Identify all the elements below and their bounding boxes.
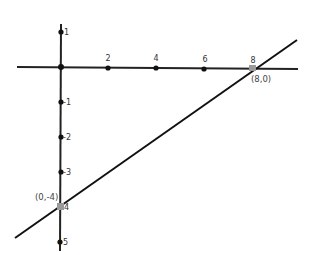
y-tick-label: 4	[64, 203, 69, 212]
y-tick-neg5: 5	[57, 238, 68, 247]
origin-dot	[58, 64, 64, 70]
y-tick-label: -2	[63, 133, 71, 142]
y-tick-neg4: 4	[64, 203, 69, 212]
x-tick-label: 8	[250, 56, 255, 65]
x-tick-8: 8	[250, 56, 255, 65]
x-intercept-label: (8,0)	[251, 74, 271, 84]
x-tick-2: 2	[105, 54, 110, 71]
y-tick-label: -1	[63, 98, 71, 107]
y-intercept-label: (0,-4)	[35, 192, 58, 202]
x-tick-label: 6	[202, 55, 207, 64]
y-tick-label: -3	[63, 168, 71, 177]
y-tick-label: 5	[63, 238, 68, 247]
y-tick-label: 1	[64, 28, 69, 37]
x-tick-4: 4	[153, 54, 158, 71]
x-tick-label: 2	[105, 54, 110, 63]
x-tick-label: 4	[153, 54, 158, 63]
coordinate-graph: 2 4 6 8 1 -1 -2 -3 4 5 (8,0) (0,-4)	[0, 0, 312, 255]
